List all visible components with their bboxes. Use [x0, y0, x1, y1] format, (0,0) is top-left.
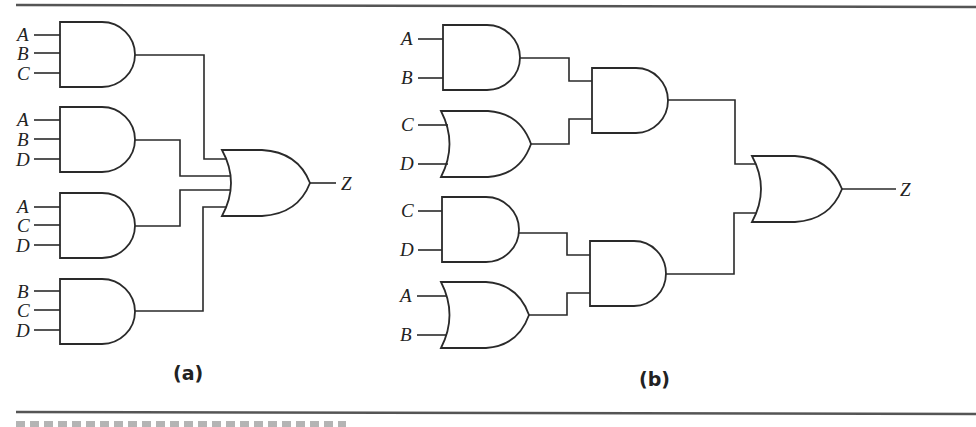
and-gate-a2: A B D: [15, 107, 135, 172]
input-label: C: [17, 215, 30, 236]
caption-a: (a): [173, 362, 203, 384]
input-label: B: [17, 281, 29, 302]
and-gate-b-mid1: [592, 68, 668, 133]
and-gate-a3: A C D: [15, 193, 135, 258]
and-gate-b2: C D: [399, 197, 519, 262]
panel-b: A B C D C D A B: [398, 25, 911, 390]
input-label: D: [399, 239, 414, 260]
or-gate-b2: A B: [398, 282, 529, 348]
top-rule: [16, 5, 976, 7]
input-label: B: [17, 43, 29, 64]
logic-circuit-figure: A B C A B D A C D: [0, 0, 976, 427]
or-gate-a: [222, 150, 310, 216]
input-label: A: [398, 285, 412, 306]
figure-caption-clipped: [16, 421, 346, 427]
input-label: C: [401, 114, 414, 135]
caption-b: (b): [639, 368, 670, 390]
input-label: B: [400, 324, 412, 345]
input-label: A: [399, 28, 413, 49]
output-label-z: Z: [900, 179, 911, 200]
input-label: C: [17, 63, 30, 84]
and-gate-b1: A B: [399, 25, 520, 90]
input-label: B: [17, 129, 29, 150]
input-label: D: [399, 153, 414, 174]
input-label: D: [15, 320, 30, 341]
input-label: C: [17, 300, 30, 321]
input-label: A: [15, 24, 29, 45]
input-label: A: [15, 109, 29, 130]
input-label: D: [15, 149, 30, 170]
or-gate-b-final: [752, 156, 842, 222]
panel-a: A B C A B D A C D: [15, 22, 352, 384]
input-label: A: [15, 196, 29, 217]
output-label-z: Z: [341, 173, 352, 194]
wires-a: [135, 55, 230, 311]
input-label: D: [15, 235, 30, 256]
and-gate-a4: B C D: [15, 279, 135, 344]
bottom-rule: [16, 412, 976, 414]
input-label: C: [401, 200, 414, 221]
and-gate-b-mid2: [590, 241, 666, 306]
and-gate-a1: A B C: [15, 22, 135, 87]
input-label: B: [401, 67, 413, 88]
or-gate-b1: C D: [399, 111, 531, 177]
